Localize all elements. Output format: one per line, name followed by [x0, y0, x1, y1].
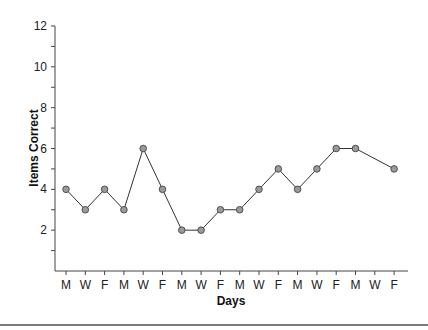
data-point-marker — [101, 186, 108, 193]
y-tick-label: 6 — [40, 142, 47, 156]
x-tick-label: F — [101, 278, 108, 292]
x-tick-label: W — [311, 278, 323, 292]
x-tick-label: M — [177, 278, 187, 292]
data-point-marker — [391, 166, 398, 173]
x-tick-label: W — [253, 278, 265, 292]
x-tick-label: F — [390, 278, 397, 292]
bottom-divider — [0, 324, 428, 326]
y-tick-label: 10 — [34, 60, 48, 74]
x-tick-label: M — [61, 278, 71, 292]
x-tick-label: F — [159, 278, 166, 292]
x-axis: MWFMWFMWFMWFMWFMWF — [55, 271, 408, 292]
data-point-marker — [333, 145, 340, 152]
data-point-marker — [140, 145, 147, 152]
y-tick-label: 12 — [34, 19, 48, 33]
y-tick-label: 4 — [40, 182, 47, 196]
x-tick-label: F — [217, 278, 224, 292]
x-tick-label: W — [195, 278, 207, 292]
data-point-marker — [275, 166, 282, 173]
y-axis-title: Items Correct — [27, 109, 41, 186]
data-point-marker — [121, 206, 128, 213]
data-point-marker — [314, 166, 321, 173]
x-tick-label: M — [351, 278, 361, 292]
line-chart: 24681012 MWFMWFMWFMWFMWFMWF Items Correc… — [0, 0, 428, 330]
data-point-marker — [352, 145, 359, 152]
x-tick-label: W — [369, 278, 381, 292]
x-tick-label: W — [138, 278, 150, 292]
data-point-marker — [294, 186, 301, 193]
data-point-marker — [159, 186, 166, 193]
x-tick-label: M — [293, 278, 303, 292]
x-tick-label: M — [119, 278, 129, 292]
x-tick-label: M — [235, 278, 245, 292]
data-point-marker — [198, 227, 205, 234]
y-tick-label: 8 — [40, 101, 47, 115]
data-point-marker — [236, 206, 243, 213]
data-point-marker — [82, 206, 89, 213]
series-line — [66, 149, 394, 231]
data-point-marker — [217, 206, 224, 213]
x-tick-label: F — [275, 278, 282, 292]
data-series — [63, 145, 398, 233]
data-point-marker — [179, 227, 186, 234]
x-axis-title: Days — [217, 294, 246, 308]
data-point-marker — [256, 186, 263, 193]
data-point-marker — [63, 186, 70, 193]
x-tick-label: W — [80, 278, 92, 292]
x-tick-label: F — [333, 278, 340, 292]
y-tick-label: 2 — [40, 223, 47, 237]
